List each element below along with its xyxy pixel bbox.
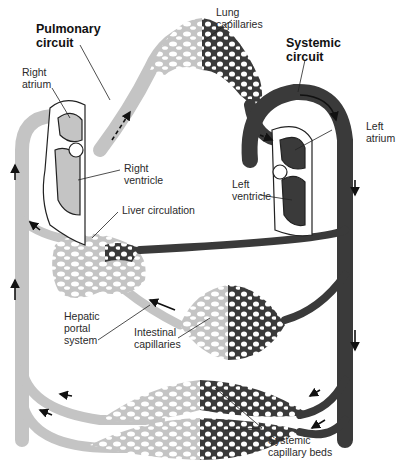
label-left-ventricle: Left ventricle [232, 178, 271, 202]
label-systemic-circuit: Systemic circuit [286, 36, 341, 64]
intestinal-capillaries-dark [228, 285, 285, 360]
right-heart [43, 101, 85, 245]
diagram-artwork [0, 0, 406, 464]
left-heart [272, 127, 312, 236]
liver-light [52, 234, 146, 298]
intestinal-capillaries-light [180, 285, 228, 360]
label-right-atrium: Right atrium [22, 66, 51, 90]
label-intestinal-capillaries: Intestinal capillaries [134, 326, 181, 350]
label-hepatic-portal-system: Hepatic portal system [64, 310, 100, 346]
label-pulmonary-circuit: Pulmonary circuit [36, 22, 101, 50]
label-left-atrium: Left atrium [366, 120, 395, 144]
circulatory-diagram: Pulmonary circuit Lung capillaries Syste… [0, 0, 406, 464]
systemic-bed-upper-light [100, 380, 200, 421]
label-systemic-capillary-beds: Systemic capillary beds [268, 434, 332, 458]
lung-capillaries-dark [202, 18, 262, 110]
label-right-ventricle: Right ventricle [124, 162, 163, 186]
label-liver-circulation: Liver circulation [122, 204, 195, 216]
systemic-bed-upper-dark [200, 380, 310, 417]
label-lung-capillaries: Lung capillaries [216, 6, 263, 30]
